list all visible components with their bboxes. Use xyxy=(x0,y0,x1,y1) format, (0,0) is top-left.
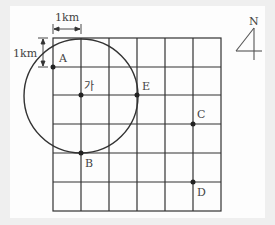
label-A: A xyxy=(58,52,68,65)
point-A xyxy=(51,65,56,70)
vertical-scale-label: 1km xyxy=(13,47,38,60)
compass-label: N xyxy=(249,15,259,28)
point-E xyxy=(135,93,140,98)
point-ga xyxy=(79,93,84,98)
grid xyxy=(53,38,221,211)
grid-map: 1km 1km N A 가 E B C D xyxy=(0,0,275,225)
point-B xyxy=(79,151,84,156)
label-D: D xyxy=(197,186,206,199)
label-B: B xyxy=(85,157,93,170)
point-C xyxy=(191,122,196,127)
horizontal-scale-label: 1km xyxy=(55,11,80,24)
north-arrow-icon xyxy=(236,28,262,60)
vertical-scale xyxy=(38,38,48,67)
point-D xyxy=(191,180,196,185)
horizontal-scale xyxy=(53,24,81,34)
label-ga: 가 xyxy=(84,80,94,93)
label-C: C xyxy=(197,108,205,121)
label-E: E xyxy=(142,80,150,93)
